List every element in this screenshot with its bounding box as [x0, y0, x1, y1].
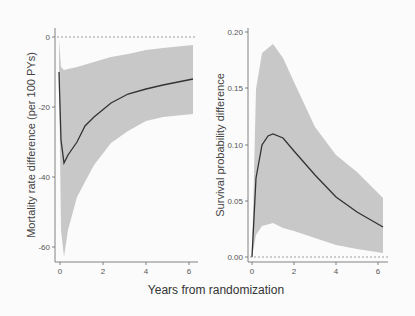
figure: 0 -20 -40 -60 0 2 4 6 Mortality rate dif… — [0, 0, 415, 316]
left-xtick: 6 — [187, 267, 192, 276]
left-xtick: 4 — [144, 267, 149, 276]
left-ytick: -40 — [38, 173, 50, 182]
left-y-axis-label: Mortality rate difference (per 100 PYs) — [25, 52, 37, 238]
right-ytick: 0.05 — [227, 197, 243, 206]
right-panel: 0.00 0.05 0.10 0.15 0.20 0 2 4 6 Surviva… — [214, 28, 388, 276]
left-xtick: 0 — [58, 267, 63, 276]
left-ytick: -60 — [38, 243, 50, 252]
right-ytick: 0.15 — [227, 84, 243, 93]
right-xtick: 2 — [292, 267, 297, 276]
left-ci-band — [59, 40, 193, 257]
left-xtick: 2 — [101, 267, 106, 276]
right-ytick: 0.00 — [227, 253, 243, 262]
right-xtick: 4 — [334, 267, 339, 276]
right-xtick: 0 — [250, 267, 255, 276]
x-axis-label: Years from randomization — [148, 283, 284, 297]
left-ytick: -20 — [38, 103, 50, 112]
right-ytick: 0.10 — [227, 141, 243, 150]
right-xtick: 6 — [376, 267, 381, 276]
left-panel: 0 -20 -40 -60 0 2 4 6 Mortality rate dif… — [25, 28, 198, 276]
left-ytick: 0 — [46, 33, 51, 42]
right-ytick: 0.20 — [227, 28, 243, 37]
right-ci-band — [252, 44, 383, 257]
right-y-axis-label: Survival probability difference — [214, 73, 226, 216]
